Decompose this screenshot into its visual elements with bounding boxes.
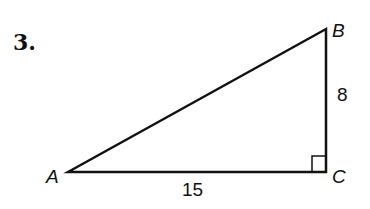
side-label-bc: 8 xyxy=(337,84,348,105)
vertex-label-b: B xyxy=(332,20,345,41)
side-label-ac: 15 xyxy=(182,179,203,200)
right-angle-marker xyxy=(312,156,326,172)
vertex-label-c: C xyxy=(332,166,346,187)
problem-number: 3. xyxy=(13,29,36,55)
vertex-label-a: A xyxy=(45,166,59,187)
triangle-shape xyxy=(68,29,326,172)
right-triangle-diagram: 3. B A C 8 15 xyxy=(0,0,370,209)
